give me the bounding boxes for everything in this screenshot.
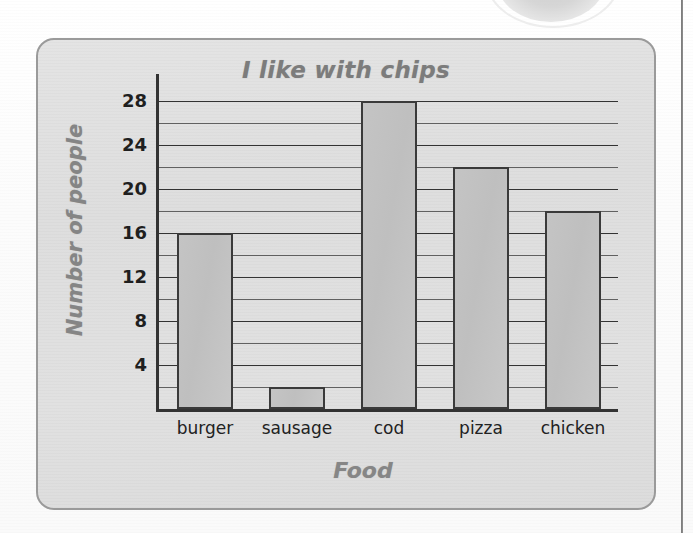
- y-tick-label-24: 24: [122, 134, 147, 155]
- bar-pizza: [453, 167, 509, 409]
- plot-area: 481216202428 burgersausagecodpizzachicke…: [156, 74, 616, 412]
- y-tick-label-4: 4: [134, 354, 147, 375]
- x-axis-label: Food: [148, 458, 578, 483]
- y-tick-label-12: 12: [122, 266, 147, 287]
- bar-chicken: [545, 211, 601, 409]
- bar-burger: [177, 233, 233, 409]
- y-tick-label-8: 8: [134, 310, 147, 331]
- x-tick-label-sausage: sausage: [262, 418, 333, 438]
- bar-sausage: [269, 387, 325, 409]
- y-tick-label-16: 16: [122, 222, 147, 243]
- chart-panel: I like with chips Number of people 48121…: [36, 38, 656, 510]
- bar-cod: [361, 101, 417, 409]
- x-tick-label-chicken: chicken: [541, 418, 606, 438]
- y-axis-label: Number of people: [63, 105, 87, 355]
- x-tick-label-burger: burger: [177, 418, 234, 438]
- x-tick-label-cod: cod: [374, 418, 405, 438]
- x-tick-label-pizza: pizza: [459, 418, 503, 438]
- y-axis-line: [156, 74, 159, 412]
- y-tick-label-20: 20: [122, 178, 147, 199]
- y-tick-label-28: 28: [122, 90, 147, 111]
- x-axis-line: [156, 409, 618, 412]
- page-edge-rule: [681, 0, 683, 533]
